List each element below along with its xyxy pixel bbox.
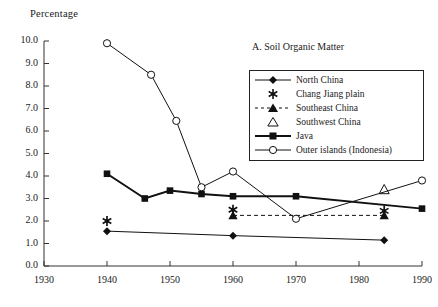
y-tick-label: 9.0	[8, 57, 38, 68]
y-tick-label: 1.0	[8, 237, 38, 248]
y-tick-label: 10.0	[8, 34, 38, 45]
open-circle-line-icon	[253, 143, 293, 157]
panel-title: A. Soil Organic Matter	[252, 41, 344, 52]
y-tick-label: 2.0	[8, 214, 38, 225]
legend-item: Chang Jiang plain	[250, 87, 423, 101]
legend-item: Southeast China	[250, 101, 423, 115]
filled-square-thick-line-icon	[253, 129, 293, 143]
asterisk-icon	[253, 87, 293, 101]
legend-label: Java	[293, 131, 313, 141]
x-tick-label: 1950	[150, 274, 190, 285]
filled-diamond-line-icon	[253, 73, 293, 87]
open-triangle-icon	[253, 115, 293, 129]
y-tick-label: 6.0	[8, 124, 38, 135]
x-tick-label: 1990	[402, 274, 438, 285]
legend-label: North China	[293, 75, 343, 85]
x-axis-ticks	[44, 261, 422, 266]
y-tick-label: 0.0	[8, 259, 38, 270]
x-tick-label: 1960	[213, 274, 253, 285]
filled-triangle-dashed-icon	[253, 101, 293, 115]
y-tick-label: 3.0	[8, 192, 38, 203]
y-tick-label: 7.0	[8, 102, 38, 113]
chart-root: Percentage A. Soil Organic Matter 10.09.…	[0, 0, 438, 307]
x-tick-label: 1980	[339, 274, 379, 285]
y-tick-label: 5.0	[8, 147, 38, 158]
series-java	[104, 170, 426, 211]
legend-item: North China	[250, 73, 423, 87]
x-tick-label: 1940	[87, 274, 127, 285]
legend-label: Chang Jiang plain	[293, 89, 365, 99]
series-north-china	[103, 227, 388, 244]
x-tick-label: 1970	[276, 274, 316, 285]
y-axis-title: Percentage	[30, 8, 78, 19]
legend-item: Java	[250, 129, 423, 143]
y-axis-ticks	[44, 41, 49, 266]
legend-item: Southwest China	[250, 115, 423, 129]
legend-label: Southeast China	[293, 103, 358, 113]
legend: North China Chang Jiang plain Southeast …	[249, 70, 424, 161]
y-tick-label: 8.0	[8, 79, 38, 90]
legend-label: Outer islands (Indonesia)	[293, 145, 392, 155]
x-tick-label: 1930	[24, 274, 64, 285]
y-tick-label: 4.0	[8, 169, 38, 180]
legend-item: Outer islands (Indonesia)	[250, 143, 423, 157]
legend-label: Southwest China	[293, 117, 361, 127]
